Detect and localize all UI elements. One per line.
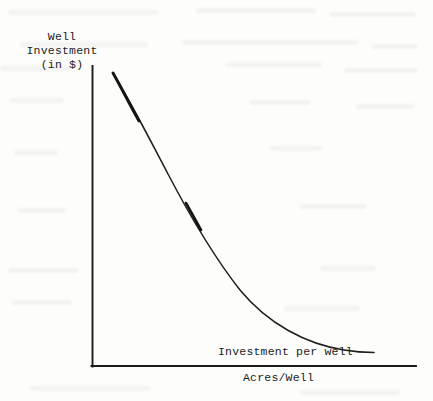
figure-page: Well Investment (in $) Investment per we… bbox=[0, 0, 433, 401]
x-axis-label: Acres/Well bbox=[243, 371, 314, 385]
curve-ink-blob bbox=[186, 203, 201, 230]
curve-ink-heavy-start bbox=[113, 73, 139, 121]
investment-curve bbox=[113, 73, 374, 353]
figure-body: Well Investment (in $) Investment per we… bbox=[0, 0, 433, 401]
curve-label: Investment per well bbox=[218, 345, 353, 359]
y-axis-label: Well Investment (in $) bbox=[14, 30, 110, 72]
